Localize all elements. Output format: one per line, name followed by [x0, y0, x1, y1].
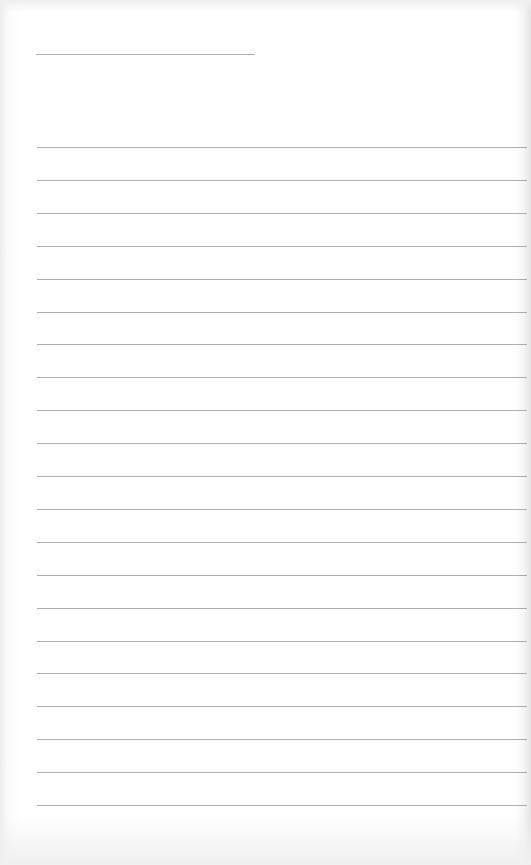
ruled-line: [37, 575, 527, 576]
ruled-line: [37, 608, 527, 609]
ruled-line: [37, 443, 527, 444]
ruled-line: [37, 180, 527, 181]
ruled-line: [37, 344, 527, 345]
ruled-line: [37, 312, 527, 313]
ruled-line: [37, 476, 527, 477]
ruled-line: [37, 542, 527, 543]
ruled-line: [37, 213, 527, 214]
scan-shadow-bottom: [0, 815, 531, 865]
ruled-line: [37, 377, 527, 378]
ruled-line: [37, 509, 527, 510]
lined-paper-sheet: [0, 0, 531, 865]
ruled-line: [37, 410, 527, 411]
ruled-line: [37, 246, 527, 247]
ruled-line: [37, 739, 527, 740]
ruled-line: [37, 772, 527, 773]
title-underline: [36, 54, 255, 55]
ruled-line: [37, 279, 527, 280]
ruled-line: [37, 673, 527, 674]
ruled-line: [37, 147, 527, 148]
ruled-line: [37, 706, 527, 707]
scan-shadow-top: [0, 0, 531, 12]
ruled-line: [37, 805, 527, 806]
ruled-line: [37, 641, 527, 642]
